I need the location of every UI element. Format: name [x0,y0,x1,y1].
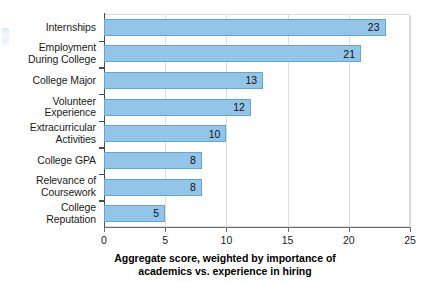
category-label: ExtracurricularActivities [0,121,96,148]
x-axis-tick-label: 15 [282,234,294,246]
category-label: Internships [0,14,96,41]
bar-value-label: 8 [190,182,201,193]
bar-row[interactable]: 13 [104,72,410,89]
gridline [410,15,411,226]
bar[interactable]: 8 [104,152,202,169]
x-axis-title-line: academics vs. experience in hiring [60,265,390,278]
category-label-line: Internships [46,22,96,34]
bar[interactable]: 13 [104,72,263,89]
category-label-line: Activities [56,134,96,146]
x-axis-tick [349,228,350,232]
x-axis-tick-label: 5 [162,234,168,246]
category-label-line: College GPA [37,155,96,167]
bar-row[interactable]: 10 [104,125,410,142]
category-label: EmploymentDuring College [0,41,96,68]
category-label-line: College [61,202,96,214]
category-label: VolunteerExperience [0,94,96,121]
bar[interactable]: 21 [104,45,361,62]
y-axis-tick [99,147,104,148]
x-axis-tick [226,228,227,232]
x-axis-tick-label: 0 [101,234,107,246]
bar[interactable]: 8 [104,179,202,196]
x-axis-tick [165,228,166,232]
bar-row[interactable]: 23 [104,19,410,36]
bar-row[interactable]: 8 [104,179,410,196]
category-label-line: During College [28,54,96,66]
category-axis-labels: InternshipsEmploymentDuring CollegeColle… [0,14,100,227]
x-axis-line [104,227,411,228]
x-axis-tick [104,228,105,232]
category-label: College Major [0,67,96,94]
bar-value-label: 10 [209,129,226,140]
bar-row[interactable]: 5 [104,205,410,222]
x-axis-tick-label: 10 [221,234,233,246]
category-label: Relevance ofCoursework [0,174,96,201]
bar-value-label: 8 [190,155,201,166]
y-axis-tick [99,67,104,68]
y-axis-tick [99,94,104,95]
bar-row[interactable]: 21 [104,45,410,62]
bar-value-label: 12 [233,102,250,113]
x-axis-tick [288,228,289,232]
bar-row[interactable]: 12 [104,99,410,116]
category-label-line: Experience [44,107,96,119]
y-axis-tick [99,41,104,42]
bar-value-label: 13 [245,75,262,86]
y-axis-tick [99,200,104,201]
x-axis-title: Aggregate score, weighted by importance … [60,252,390,278]
bar[interactable]: 23 [104,19,386,36]
bar-row[interactable]: 8 [104,152,410,169]
bar[interactable]: 5 [104,205,165,222]
bar-chart: InternshipsEmploymentDuring CollegeColle… [0,0,436,282]
bar-value-label: 23 [368,22,385,33]
x-axis-tick-label: 25 [404,234,416,246]
bar-value-label: 5 [153,208,164,219]
bar[interactable]: 10 [104,125,226,142]
category-label-line: Reputation [46,214,96,226]
category-label: CollegeReputation [0,200,96,227]
category-label: College GPA [0,147,96,174]
y-axis-tick [99,121,104,122]
category-label-line: College Major [33,75,96,87]
x-axis-tick [410,228,411,232]
bar[interactable]: 12 [104,99,251,116]
y-axis-tick [99,174,104,175]
bar-value-label: 21 [343,49,360,60]
x-axis-tick-label: 20 [343,234,355,246]
category-label-line: Coursework [41,187,96,199]
x-axis-title-line: Aggregate score, weighted by importance … [60,252,390,265]
